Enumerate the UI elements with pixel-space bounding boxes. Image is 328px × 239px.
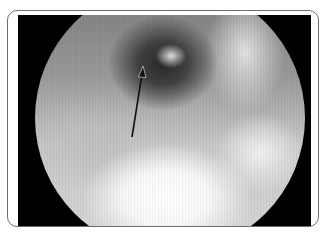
scanline-texture (35, 15, 305, 226)
endoscopic-photo (18, 15, 311, 226)
endoscopic-field-of-view (35, 15, 305, 226)
